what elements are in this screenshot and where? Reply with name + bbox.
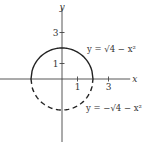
x-axis-label: x	[132, 74, 137, 84]
y-tick-label-1: 1	[53, 59, 59, 69]
lower-curve-label: y = −√4 − x²	[85, 103, 142, 113]
x-tick-label-3: 3	[106, 82, 112, 92]
y-axis-label: y	[58, 2, 65, 12]
semicircle-chart: 1313 x y y = √4 − x² y = −√4 − x²	[0, 0, 144, 142]
upper-curve-label: y = √4 − x²	[86, 44, 136, 54]
x-tick-label-1: 1	[75, 82, 81, 92]
y-tick-label-3: 3	[53, 28, 59, 38]
